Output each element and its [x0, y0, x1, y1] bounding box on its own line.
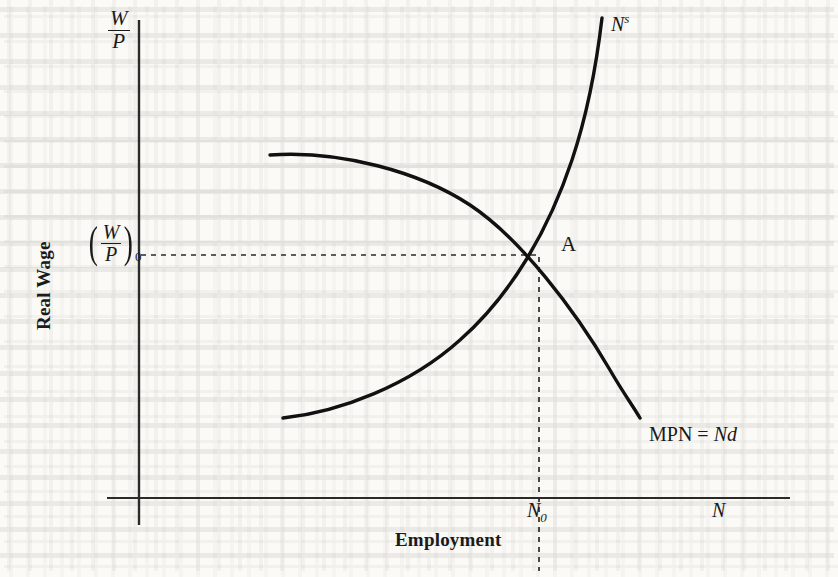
x-axis-title: Employment [395, 530, 502, 549]
equilibrium-wage-numerator: W [101, 222, 122, 243]
supply-superscript: s [624, 11, 629, 26]
y-axis-denominator: P [108, 30, 130, 53]
equilibrium-employment-label: N0 [527, 500, 547, 524]
supply-base: N [611, 13, 624, 35]
employment-base: N [527, 499, 540, 521]
labor-demand-curve [270, 154, 640, 418]
equilibrium-wage-label: ( W P ) 0 [86, 222, 141, 265]
equilibrium-point-label: A [561, 234, 576, 255]
y-axis-variable-label: W P [108, 8, 130, 53]
demand-base: N [714, 423, 727, 445]
employment-subscript: 0 [540, 510, 547, 525]
equilibrium-wage-denominator: P [101, 243, 122, 265]
y-axis-title: Real Wage [34, 241, 53, 330]
demand-prefix: MPN = [649, 423, 714, 445]
close-paren: ) [124, 224, 133, 262]
open-paren: ( [89, 224, 98, 262]
x-axis-variable-label: N [712, 500, 725, 520]
equilibrium-wage-subscript: 0 [135, 250, 142, 265]
labor-supply-curve [283, 18, 602, 418]
y-axis-numerator: W [108, 8, 130, 30]
labor-supply-curve-label: Ns [611, 12, 629, 34]
labor-demand-curve-label: MPN = Nd [649, 424, 737, 444]
demand-superscript: d [727, 423, 737, 445]
